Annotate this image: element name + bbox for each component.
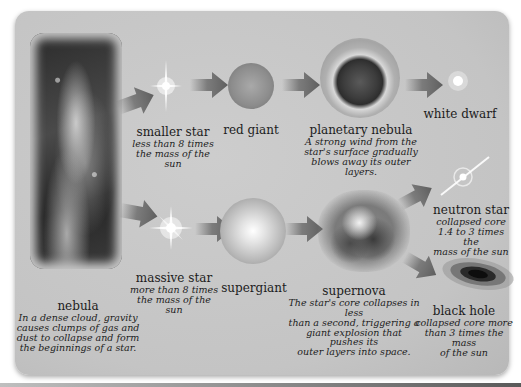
neutron-star-icon: [441, 157, 489, 195]
white-dwarf-label: white dwarf: [420, 108, 500, 121]
node-supergiant: supergiant: [214, 282, 294, 295]
smaller-star-desc: less than 8 times the mass of the sun: [128, 139, 218, 169]
planetary-nebula-icon: [320, 38, 400, 118]
black-hole-desc: collapsed core more than 3 times the mas…: [415, 318, 513, 358]
node-white-dwarf: white dwarf: [420, 108, 500, 121]
smaller-star-label: smaller star: [128, 126, 218, 139]
node-smaller-star: smaller star less than 8 times the mass …: [128, 126, 218, 169]
black-hole-icon: [440, 253, 516, 295]
arrow-nebula-to-smaller-star: [113, 82, 158, 121]
red-giant-icon: [228, 63, 274, 109]
arrow-nebula-to-massive-star: [118, 196, 160, 230]
node-neutron-star: neutron star collapsed core 1.4 to 3 tim…: [430, 204, 512, 256]
black-hole-label: black hole: [415, 305, 513, 318]
supernova-desc: The star's core collapses in less than a…: [288, 298, 420, 358]
white-dwarf-icon: [448, 71, 468, 91]
smaller-star-icon: [150, 60, 182, 112]
nebula-desc: In a dense cloud, gravity causes clumps …: [10, 313, 146, 353]
planetary-nebula-label: planetary nebula: [296, 124, 426, 137]
supernova-icon: [318, 190, 410, 272]
nebula-label: nebula: [10, 300, 146, 313]
supernova-label: supernova: [288, 285, 420, 298]
node-red-giant: red giant: [210, 124, 292, 137]
node-supernova: supernova The star's core collapses in l…: [288, 285, 420, 357]
supergiant-label: supergiant: [214, 282, 294, 295]
massive-star-icon: [149, 206, 193, 250]
neutron-star-label: neutron star: [430, 204, 512, 217]
planetary-nebula-desc: A strong wind from the star's surface gr…: [296, 137, 426, 177]
node-black-hole: black hole collapsed core more than 3 ti…: [415, 305, 513, 357]
arrow-smaller-star-to-red-giant: [190, 72, 228, 98]
red-giant-label: red giant: [210, 124, 292, 137]
neutron-star-desc: collapsed core 1.4 to 3 times the mass o…: [430, 217, 512, 257]
node-planetary-nebula: planetary nebula A strong wind from the …: [296, 124, 426, 176]
node-nebula: nebula In a dense cloud, gravity causes …: [10, 300, 146, 352]
massive-star-label: massive star: [128, 272, 220, 285]
arrow-planetary-nebula-to-white-dwarf: [405, 72, 443, 98]
arrow-red-giant-to-planetary-nebula: [282, 72, 320, 98]
node-massive-star: massive star more than 8 times the mass …: [128, 272, 220, 315]
massive-star-desc: more than 8 times the mass of the sun: [128, 285, 220, 315]
supergiant-icon: [220, 198, 286, 264]
